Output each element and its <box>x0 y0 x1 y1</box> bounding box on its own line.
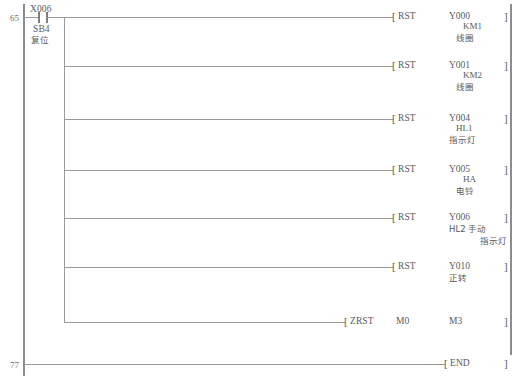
instruction-zrst: ZRST <box>350 317 374 327</box>
input-tag-label: SB4 <box>33 25 50 35</box>
operand-note-2: 线圈 <box>449 80 504 92</box>
output-rung-wire-6 <box>64 267 393 268</box>
rung-wire-to-contact <box>24 17 38 18</box>
open-bracket-end: [ <box>444 358 448 369</box>
output-rung-wire-4 <box>64 170 393 171</box>
operand-note-3: 指示灯 <box>449 133 504 145</box>
right-power-rail <box>510 4 512 355</box>
operand-block-5: Y006 HL2 手动 指示灯 <box>449 212 507 246</box>
operand-block-1: Y000 KM1 线圈 <box>449 11 504 43</box>
output-rung-wire-7 <box>64 322 345 323</box>
open-bracket-1: [ <box>392 11 396 22</box>
operand-tag-3: HL1 <box>449 123 504 133</box>
input-device-label: X006 <box>30 5 52 15</box>
zrst-operand-2: M3 <box>449 317 462 327</box>
open-bracket-4: [ <box>392 164 396 175</box>
output-rung-wire-1 <box>64 17 393 18</box>
output-rung-wire-3 <box>64 119 393 120</box>
operand-block-6: Y010 正转 <box>449 261 504 283</box>
open-bracket-6: [ <box>392 261 396 272</box>
operand-name-4: Y005 <box>449 164 504 174</box>
output-rung-wire-5 <box>64 218 393 219</box>
operand-name-5: Y006 <box>449 212 507 222</box>
open-bracket-2: [ <box>392 60 396 71</box>
ladder-diagram-canvas: 65 X006 SB4 复位 [ RST Y000 KM1 线圈 ] [ RST… <box>0 0 514 385</box>
close-bracket-4: ] <box>504 164 508 175</box>
rung-wire-from-contact <box>47 17 64 18</box>
close-bracket-7: ] <box>504 316 508 327</box>
close-bracket-2: ] <box>504 60 508 71</box>
contact-bar-left <box>38 12 40 23</box>
operand-block-4: Y005 HA 电铃 <box>449 164 504 196</box>
operand-name-2: Y001 <box>449 60 504 70</box>
instruction-rst-6: RST <box>398 262 416 272</box>
output-rung-wire-2 <box>64 66 393 67</box>
close-bracket-6: ] <box>504 261 508 272</box>
end-rung-wire <box>24 364 445 365</box>
instruction-rst-3: RST <box>398 114 416 124</box>
left-power-rail <box>23 4 25 376</box>
operand-name-6: Y010 <box>449 261 504 271</box>
operand-tag-6: 正转 <box>449 271 504 283</box>
close-bracket-3: ] <box>504 113 508 124</box>
operand-tag-4: HA <box>449 174 504 184</box>
instruction-end: END <box>450 359 470 369</box>
instruction-rst-2: RST <box>398 61 416 71</box>
close-bracket-5: ] <box>504 212 508 223</box>
open-bracket-7: [ <box>344 316 348 327</box>
input-note-label: 复位 <box>31 36 49 45</box>
operand-note-4: 电铃 <box>449 184 504 196</box>
rung-number-77: 77 <box>0 361 19 370</box>
instruction-rst-5: RST <box>398 213 416 223</box>
operand-tag-2: KM2 <box>449 70 504 80</box>
operand-tag-5: HL2 手动 <box>449 222 507 234</box>
open-bracket-5: [ <box>392 212 396 223</box>
operand-name-3: Y004 <box>449 113 504 123</box>
close-bracket-1: ] <box>504 11 508 22</box>
open-bracket-3: [ <box>392 113 396 124</box>
operand-note-1: 线圈 <box>449 31 504 43</box>
operand-block-2: Y001 KM2 线圈 <box>449 60 504 92</box>
figure-caption <box>0 374 514 385</box>
rung-number-65: 65 <box>0 14 19 23</box>
operand-name-1: Y000 <box>449 11 504 21</box>
zrst-operand-1: M0 <box>396 317 409 327</box>
close-bracket-end: ] <box>504 358 508 369</box>
instruction-rst-1: RST <box>398 12 416 22</box>
operand-tag-1: KM1 <box>449 21 504 31</box>
operand-block-3: Y004 HL1 指示灯 <box>449 113 504 145</box>
operand-note-5: 指示灯 <box>449 234 507 246</box>
instruction-rst-4: RST <box>398 165 416 175</box>
